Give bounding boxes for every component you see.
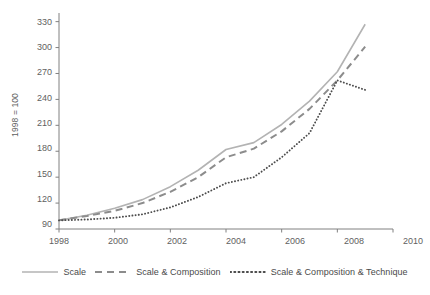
x-tick-label: 2008 xyxy=(334,236,374,246)
x-tick-label: 2000 xyxy=(98,236,138,246)
x-tick-label: 1998 xyxy=(39,236,79,246)
legend-label: Scale xyxy=(63,267,86,277)
chart-legend: Scale Scale & Composition Scale & Compos… xyxy=(0,262,430,282)
data-series-group xyxy=(59,24,365,220)
x-tick-label: 2006 xyxy=(275,236,315,246)
x-tick-label: 2010 xyxy=(393,236,430,246)
y-tick-label: 180 xyxy=(24,144,52,153)
y-tick-label: 150 xyxy=(24,170,52,179)
y-axis-title: 1998 = 100 xyxy=(10,70,20,160)
x-tick-label: 2002 xyxy=(157,236,197,246)
legend-item-scale-composition-technique[interactable]: Scale & Composition & Technique xyxy=(230,267,408,277)
axes xyxy=(56,13,394,233)
y-tick-label: 240 xyxy=(24,94,52,103)
plot-area xyxy=(0,0,430,295)
x-tick-label: 2004 xyxy=(216,236,256,246)
legend-swatch-solid-icon xyxy=(22,267,58,277)
legend-swatch-dashed-icon xyxy=(95,267,131,277)
y-axis-tick-labels: 330 300 270 240 210 180 150 120 90 xyxy=(22,0,52,295)
legend-item-scale[interactable]: Scale xyxy=(22,267,86,277)
series-line-1 xyxy=(59,47,365,221)
y-tick-label: 330 xyxy=(24,18,52,27)
line-chart-figure: 1998 = 100 330 300 270 240 210 180 150 1… xyxy=(0,0,430,295)
y-tick-label: 210 xyxy=(24,119,52,128)
y-tick-label: 270 xyxy=(24,68,52,77)
y-tick-label: 300 xyxy=(24,43,52,52)
legend-item-scale-composition[interactable]: Scale & Composition xyxy=(95,267,221,277)
legend-swatch-dotted-icon xyxy=(230,267,266,277)
legend-label: Scale & Composition & Technique xyxy=(271,267,408,277)
series-line-2 xyxy=(59,80,365,220)
y-tick-label: 90 xyxy=(24,220,52,229)
legend-label: Scale & Composition xyxy=(136,267,221,277)
y-tick-label: 120 xyxy=(24,195,52,204)
